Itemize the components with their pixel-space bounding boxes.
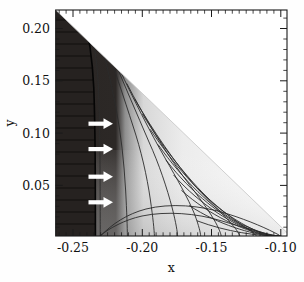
x-tick-label: -0.20 <box>126 240 158 255</box>
y-tick-label: 0.20 <box>22 21 50 36</box>
x-tick-label: -0.25 <box>57 240 89 255</box>
contour-plot: -0.25 -0.20 -0.15 -0.10 0.05 0.10 0.15 0… <box>0 0 304 282</box>
x-tick-label: -0.15 <box>195 240 227 255</box>
y-axis-minor-ticks <box>56 18 60 227</box>
y-tick-label: 0.05 <box>22 178 50 193</box>
x-tick-label: -0.10 <box>265 240 297 255</box>
x-axis-label: x <box>168 260 175 275</box>
plot-svg: -0.25 -0.20 -0.15 -0.10 0.05 0.10 0.15 0… <box>0 0 304 282</box>
figure-root: -0.25 -0.20 -0.15 -0.10 0.05 0.10 0.15 0… <box>0 0 304 282</box>
y-axis-label: y <box>2 119 17 128</box>
y-tick-label: 0.15 <box>22 73 50 88</box>
y-tick-label: 0.10 <box>22 126 50 141</box>
